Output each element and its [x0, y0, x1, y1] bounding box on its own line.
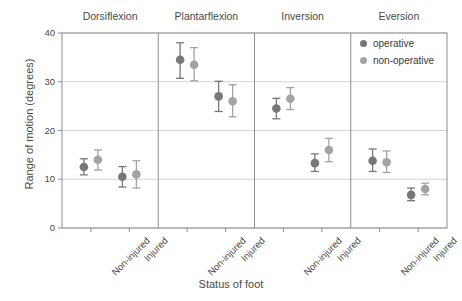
legend-item-non-operative: non-operative	[360, 53, 434, 67]
marker-point-plantarflexion-non-injured-operative	[176, 56, 185, 65]
marker-point-dorsiflexion-injured-operative	[118, 173, 127, 182]
panel-strip-1	[158, 12, 254, 33]
marker-point-eversion-non-injured-operative	[368, 156, 377, 165]
legend-label-non-operative: non-operative	[373, 55, 434, 66]
marker-point-inversion-non-injured-operative	[272, 104, 281, 113]
marker-point-plantarflexion-non-injured-non-operative	[190, 60, 199, 69]
marker-point-inversion-non-injured-non-operative	[286, 95, 295, 104]
panel-strip-0	[62, 12, 158, 33]
legend-marker-operative	[360, 40, 367, 47]
marker-point-eversion-non-injured-non-operative	[382, 158, 391, 167]
y-tick-0: 0	[31, 222, 55, 233]
panel-strip-2	[255, 12, 351, 33]
marker-point-eversion-injured-non-operative	[421, 185, 430, 194]
panel-strip-3	[351, 12, 447, 33]
marker-point-inversion-injured-non-operative	[325, 146, 334, 155]
marker-point-dorsiflexion-non-injured-non-operative	[94, 155, 103, 164]
y-tick-10: 10	[31, 173, 55, 184]
y-tick-40: 40	[31, 27, 55, 38]
legend-label-operative: operative	[373, 38, 414, 49]
marker-point-inversion-injured-operative	[311, 159, 320, 168]
marker-point-dorsiflexion-injured-non-operative	[132, 170, 141, 179]
marker-point-eversion-injured-operative	[407, 191, 416, 200]
legend-item-operative: operative	[360, 36, 434, 50]
marker-point-plantarflexion-injured-operative	[214, 92, 223, 101]
legend-marker-non-operative	[360, 57, 367, 64]
marker-point-plantarflexion-injured-non-operative	[228, 97, 237, 106]
range-of-motion-chart: Range of motion (degrees) Status of foot…	[0, 0, 462, 301]
marker-point-dorsiflexion-non-injured-operative	[80, 163, 89, 172]
y-tick-20: 20	[31, 125, 55, 136]
legend: operative non-operative	[360, 36, 434, 70]
y-tick-30: 30	[31, 76, 55, 87]
